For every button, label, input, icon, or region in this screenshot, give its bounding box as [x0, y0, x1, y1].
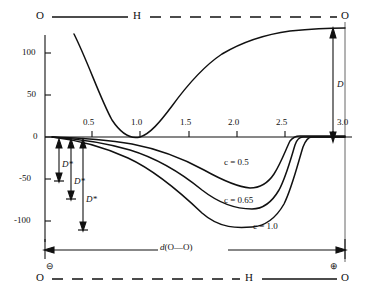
- top-scheme-mid-atom: H: [133, 10, 141, 21]
- y-tick-label-100: 100: [22, 48, 36, 57]
- barrier-label-2: D*: [74, 177, 85, 186]
- y-tick-label-50: 50: [27, 90, 36, 99]
- distance-axis-label: d(O––O): [160, 243, 193, 252]
- top-scheme-right-atom: O: [341, 10, 349, 21]
- barrier-Dstar-arrow-2: [66, 139, 76, 200]
- x-tick-label-3-0: 3.0: [337, 118, 348, 127]
- curve-label-c-0-5: c = 0.5: [224, 158, 249, 167]
- y-tick-label-minus-50: -50: [19, 174, 31, 183]
- curve-label-c-0-65: c = 0.65: [224, 196, 253, 205]
- distance-measure-bar: [44, 239, 346, 259]
- x-tick-label-0-5: 0.5: [83, 118, 94, 127]
- bottom-scheme-right-atom: O: [341, 272, 349, 283]
- bottom-scheme-mid-atom: H: [245, 272, 253, 283]
- y-tick-label-0: 0: [33, 132, 38, 141]
- curve-reference: [74, 28, 345, 137]
- potential-energy-figure: O H O 100 50 0 -50 -100 0.5 1.0 1.5 2.0 …: [0, 0, 371, 297]
- curve-label-c-1-0: c = 1.0: [253, 222, 278, 231]
- x-tick-label-1-5: 1.5: [180, 118, 191, 127]
- bottom-scheme-right-charge: ⊕: [330, 262, 338, 271]
- x-tick-label-1-0: 1.0: [131, 118, 142, 127]
- bottom-scheme-left-charge: ⊖: [46, 262, 54, 271]
- bottom-scheme-left-atom: O: [36, 272, 44, 283]
- figure-canvas: [0, 0, 371, 297]
- y-tick-label-minus-100: -100: [14, 216, 31, 225]
- x-tick-label-2-5: 2.5: [276, 118, 287, 127]
- curve-c-1-0: [52, 137, 345, 227]
- top-scheme-left-atom: O: [36, 10, 44, 21]
- well-depth-label: D: [337, 80, 344, 89]
- barrier-label-1: D*: [62, 160, 73, 169]
- barrier-label-3: D*: [86, 195, 97, 204]
- distance-axis-label-rest: (O––O): [165, 242, 193, 252]
- y-ticks: [45, 53, 51, 221]
- x-tick-label-2-0: 2.0: [228, 118, 239, 127]
- well-depth-D-arrow: [330, 28, 336, 142]
- curve-c-0-5: [52, 136, 345, 188]
